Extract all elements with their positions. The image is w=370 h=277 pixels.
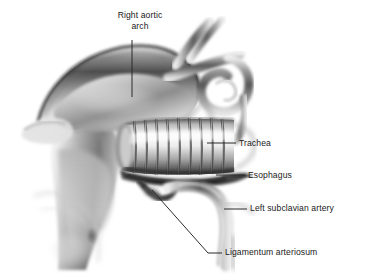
label-right-aortic-arch-line2: arch — [131, 21, 148, 31]
label-right-aortic-arch-line1: Right aortic — [118, 10, 163, 20]
label-left-subclavian-artery: Left subclavian artery — [250, 203, 334, 214]
label-esophagus: Esophagus — [248, 170, 292, 181]
trachea-structure — [115, 118, 254, 175]
label-ligamentum-arteriosum: Ligamentum arteriosum — [225, 247, 317, 258]
label-trachea: Trachea — [239, 138, 271, 149]
anatomical-figure: Right aortic arch Trachea Esophagus Left… — [0, 0, 370, 277]
anatomy-illustration — [0, 0, 370, 277]
label-right-aortic-arch: Right aortic arch — [96, 10, 184, 31]
